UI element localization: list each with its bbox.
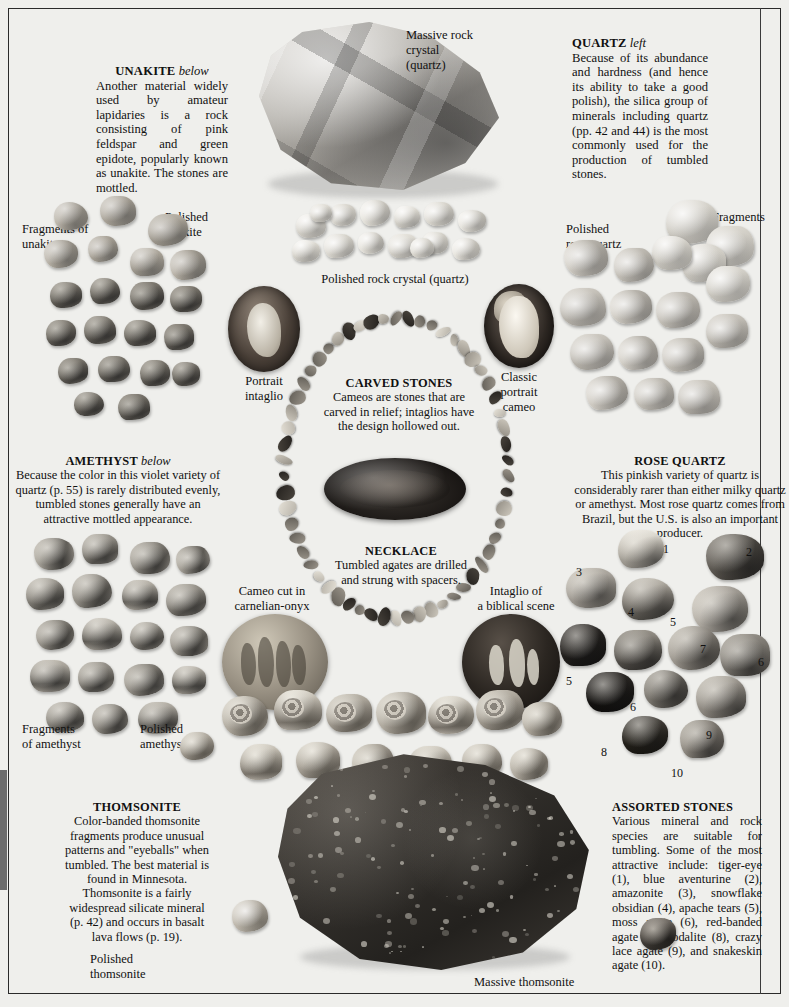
thomsonite-eyeball-pattern <box>334 702 356 722</box>
thomsonite-inclusion <box>409 829 411 831</box>
thomsonite-inclusion <box>323 918 330 924</box>
specimen-stone <box>130 542 170 574</box>
thomsonite-inclusion <box>523 929 525 931</box>
necklace-bead <box>277 498 299 518</box>
thomsonite-inclusion <box>337 873 343 878</box>
label-massive-thomsonite: Massive thomsonite <box>474 975 634 990</box>
thomsonite-body: Color-banded thomsonite fragments produc… <box>62 814 212 944</box>
thomsonite-inclusion <box>439 802 443 805</box>
thomsonite-inclusion <box>404 767 410 772</box>
thomsonite-inclusion <box>401 808 406 812</box>
necklace-bead <box>494 408 507 416</box>
necklace-body: Tumbled agates are drilled and strung wi… <box>326 558 476 587</box>
specimen-stone <box>394 206 420 228</box>
specimen-stone <box>706 534 764 580</box>
necklace-bead <box>480 543 497 562</box>
thomsonite-inclusion <box>365 812 367 813</box>
thomsonite-inclusion <box>431 854 435 857</box>
thomsonite-inclusion <box>483 804 489 809</box>
necklace-bead <box>413 606 427 623</box>
specimen-stone <box>560 624 606 666</box>
assorted-stone-number: 2 <box>746 545 752 560</box>
specimen-stone <box>310 204 332 222</box>
specimen-stone <box>706 266 750 302</box>
thomsonite-inclusion <box>377 866 380 869</box>
specimen-stone <box>90 278 120 304</box>
specimen-stone <box>678 380 720 414</box>
thomsonite-inclusion <box>533 878 537 881</box>
assorted-body: Various mineral and rock species are sui… <box>612 814 762 972</box>
specimen-stone <box>618 336 658 370</box>
thomsonite-inclusion <box>404 775 407 778</box>
specimen-stone <box>78 662 114 692</box>
specimen-stone <box>98 356 130 382</box>
cameo-figure <box>276 641 291 687</box>
intaglio-figure <box>489 645 504 685</box>
thomsonite-inclusion <box>557 910 560 912</box>
necklace-bead <box>486 389 504 407</box>
specimen-stone <box>170 250 206 280</box>
thomsonite-inclusion <box>487 902 494 908</box>
thomsonite-inclusion <box>410 918 417 924</box>
specimen-stone <box>180 732 214 760</box>
thomsonite-inclusion <box>432 908 436 911</box>
label-polished-rock-crystal: Polished rock crystal (quartz) <box>300 272 490 287</box>
thomsonite-inclusion <box>408 894 414 899</box>
text-block-quartz: QUARTZ left Because of its abundance and… <box>572 36 708 182</box>
necklace-bead <box>278 470 291 483</box>
thomsonite-inclusion <box>288 878 295 884</box>
thomsonite-inclusion <box>384 944 389 948</box>
specimen-stone <box>130 282 164 310</box>
thomsonite-inclusion <box>369 794 376 800</box>
thomsonite-inclusion <box>312 812 318 817</box>
thomsonite-inclusion <box>389 952 391 954</box>
thomsonite-inclusion <box>473 857 475 859</box>
label-fragments-of-amethyst: Fragments of amethyst <box>22 722 112 752</box>
thomsonite-inclusion <box>447 835 454 841</box>
specimen-stone <box>586 672 634 712</box>
specimen-stone <box>522 702 562 736</box>
specimen-stone <box>668 626 720 670</box>
assorted-stone-number: 3 <box>576 565 582 580</box>
label-line: a biblical scene <box>470 599 562 614</box>
thomsonite-inclusion <box>502 931 509 937</box>
specimen-stone <box>84 316 116 344</box>
label-line: carnelian-onyx <box>218 599 326 614</box>
label-line: of amethyst <box>22 737 112 752</box>
carved-stones-heading: CARVED STONES <box>315 376 483 390</box>
thomsonite-inclusion <box>554 885 556 887</box>
necklace-heading: NECKLACE <box>326 544 476 558</box>
specimen-stone <box>292 240 320 262</box>
specimen-stone <box>58 358 88 384</box>
thomsonite-inclusion <box>293 895 298 900</box>
specimen-stone <box>124 320 156 346</box>
specimen-stone <box>634 378 674 410</box>
thomsonite-inclusion <box>482 772 488 777</box>
thomsonite-inclusion <box>440 927 444 930</box>
thomsonite-inclusion <box>333 817 340 823</box>
thomsonite-inclusion <box>547 913 553 918</box>
cameo-figure <box>292 645 306 685</box>
unakite-specimen-group <box>44 196 224 426</box>
thomsonite-inclusion <box>578 906 583 911</box>
thomsonite-inclusion <box>510 895 514 898</box>
thomsonite-inclusion <box>525 933 529 936</box>
thomsonite-inclusion <box>557 841 564 847</box>
thomsonite-inclusion <box>471 915 473 916</box>
text-block-assorted-stones: ASSORTED STONES Various mineral and rock… <box>612 800 762 973</box>
specimen-stone <box>46 320 76 346</box>
label-intaglio-biblical-scene: Intaglio of a biblical scene <box>470 584 562 614</box>
thomsonite-inclusion <box>537 824 540 827</box>
label-cameo-cut-carnelian-onyx: Cameo cut in carnelian-onyx <box>218 584 326 614</box>
thomsonite-inclusion <box>382 765 387 769</box>
text-block-rose-quartz: ROSE QUARTZ This pinkish variety of quar… <box>572 454 788 540</box>
rose-quartz-heading-text: ROSE QUARTZ <box>634 454 726 468</box>
thomsonite-eyeball-pattern <box>436 704 458 724</box>
necklace-bead <box>495 499 513 517</box>
specimen-stone <box>452 238 480 260</box>
quartz-heading-italic: left <box>630 36 646 50</box>
massive-thomsonite-specimen <box>278 752 592 970</box>
thomsonite-inclusion <box>509 937 516 943</box>
necklace-bead <box>500 467 516 484</box>
specimen-stone <box>570 334 614 370</box>
